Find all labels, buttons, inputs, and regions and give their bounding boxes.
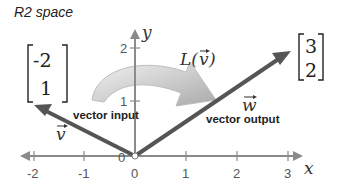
svg-text:3: 3: [305, 35, 317, 57]
origin-point: [132, 153, 138, 159]
svg-text:L(: L(: [179, 49, 198, 69]
svg-text:2: 2: [305, 59, 317, 81]
vector-output-label: vector output: [206, 113, 280, 125]
output-vector-matrix: 3 2: [299, 34, 323, 81]
svg-text:): ): [208, 49, 216, 69]
x-tick-label: -1: [78, 166, 90, 181]
w-label: w: [242, 95, 257, 115]
y-tick-label: 2: [120, 41, 127, 56]
input-vector-matrix: -2 1: [28, 45, 67, 102]
x-axis: [20, 151, 303, 161]
y-axis: [130, 29, 140, 158]
x-axis-label: x: [304, 158, 314, 178]
x-tick-label: 1: [182, 166, 189, 181]
y-axis-label: y: [141, 22, 152, 42]
vector-input-label: vector input: [73, 109, 139, 121]
v-label: v: [56, 124, 68, 144]
x-tick-label: 2: [233, 166, 240, 181]
y-tick-label: 1: [120, 94, 127, 109]
x-tick-label: -2: [27, 166, 39, 181]
transform-label: L( v ): [179, 49, 216, 69]
svg-text:1: 1: [40, 77, 52, 99]
svg-text:-2: -2: [33, 49, 52, 71]
x-tick-label: 3: [284, 166, 291, 181]
x-tick-label: 0: [131, 166, 138, 181]
coordinate-plane: -2 -1 0 1 2 3 1 2 0 x y v w vector input…: [0, 0, 339, 189]
